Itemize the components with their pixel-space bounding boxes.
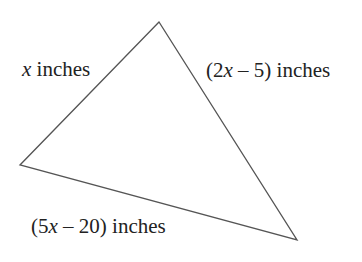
triangle-outline	[20, 22, 297, 240]
right-side-label: (2x – 5) inches	[206, 60, 330, 81]
variable-x: x	[49, 214, 58, 238]
bottom-side-label: (5x – 20) inches	[31, 216, 166, 237]
triangle-diagram: x inches (2x – 5) inches (5x – 20) inche…	[0, 0, 362, 262]
variable-x: x	[22, 57, 31, 81]
left-side-label: x inches	[22, 59, 90, 80]
variable-x: x	[224, 58, 233, 82]
